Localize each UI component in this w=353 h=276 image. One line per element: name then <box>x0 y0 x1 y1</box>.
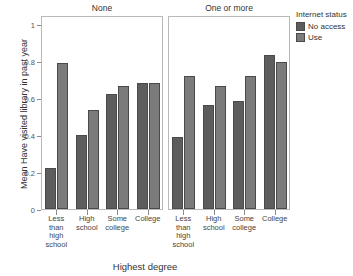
x-tick-label: College <box>131 215 165 224</box>
bar[interactable] <box>276 62 287 209</box>
facet-strip-none: None <box>41 1 163 15</box>
x-tick-label: College <box>258 215 292 224</box>
bar-group <box>172 17 197 209</box>
legend-title: Internet status <box>296 10 353 19</box>
y-tick-label: 0.2 <box>25 169 35 178</box>
legend: Internet status No access Use <box>296 10 353 44</box>
plot-area-one-or-more <box>169 17 289 209</box>
bar-group <box>233 17 258 209</box>
bar[interactable] <box>106 94 117 209</box>
y-tick-label: 0.4 <box>25 132 35 141</box>
bar[interactable] <box>118 86 129 209</box>
bar[interactable] <box>172 137 183 209</box>
bar[interactable] <box>45 168 56 209</box>
x-tick-label: Highschool <box>197 215 231 232</box>
x-tick-label: Lessthanhighschool <box>166 215 200 249</box>
bar[interactable] <box>203 105 214 209</box>
bar[interactable] <box>215 86 226 209</box>
bar-group <box>106 17 131 209</box>
bar[interactable] <box>245 76 256 209</box>
bar-group <box>203 17 228 209</box>
y-tick-label: 1 <box>31 21 35 30</box>
facet-panel-none <box>41 16 163 210</box>
x-tick-label: Highschool <box>70 215 104 232</box>
bar[interactable] <box>88 110 99 209</box>
chart-figure: Mean Have visited library in past year 0… <box>0 0 353 276</box>
bar-group <box>264 17 289 209</box>
bar[interactable] <box>137 83 148 209</box>
bar[interactable] <box>76 135 87 209</box>
bar[interactable] <box>233 101 244 209</box>
bar[interactable] <box>57 63 68 209</box>
x-axis-labels-none: LessthanhighschoolHighschoolSomecollegeC… <box>41 215 163 259</box>
y-axis: 00.20.40.60.81 <box>0 16 41 210</box>
facet-panel-one-or-more <box>168 16 290 210</box>
bar[interactable] <box>264 55 275 209</box>
bar[interactable] <box>149 83 160 209</box>
facet-strip-one-or-more: One or more <box>168 1 290 15</box>
legend-label-use: Use <box>308 33 322 42</box>
legend-item-use[interactable]: Use <box>296 33 353 42</box>
y-tick-label: 0 <box>31 206 35 215</box>
x-tick-label: Somecollege <box>227 215 261 232</box>
legend-swatch-use <box>296 33 305 42</box>
bar-group <box>137 17 162 209</box>
y-tick-label: 0.8 <box>25 58 35 67</box>
x-axis-title: Highest degree <box>0 261 290 272</box>
bar-group <box>76 17 101 209</box>
legend-label-no-access: No access <box>308 22 345 31</box>
plot-area-none <box>42 17 162 209</box>
legend-swatch-no-access <box>296 22 305 31</box>
x-axis-labels-one-or-more: LessthanhighschoolHighschoolSomecollegeC… <box>168 215 290 259</box>
legend-item-no-access[interactable]: No access <box>296 22 353 31</box>
x-tick-label: Lessthanhighschool <box>39 215 73 249</box>
x-tick-label: Somecollege <box>100 215 134 232</box>
bar[interactable] <box>184 76 195 209</box>
y-tick-label: 0.6 <box>25 95 35 104</box>
bar-group <box>45 17 70 209</box>
